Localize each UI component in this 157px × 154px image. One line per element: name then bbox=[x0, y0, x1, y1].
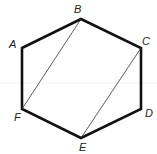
vertex-label-d: D bbox=[145, 107, 153, 119]
vertex-label-f: F bbox=[14, 111, 22, 123]
vertex-label-c: C bbox=[142, 35, 150, 47]
vertex-label-a: A bbox=[8, 38, 16, 50]
vertex-label-e: E bbox=[79, 141, 87, 153]
hexagon-outline bbox=[22, 19, 141, 138]
vertex-label-b: B bbox=[74, 3, 81, 15]
hexagon-diagram: A B C D E F bbox=[0, 0, 157, 154]
